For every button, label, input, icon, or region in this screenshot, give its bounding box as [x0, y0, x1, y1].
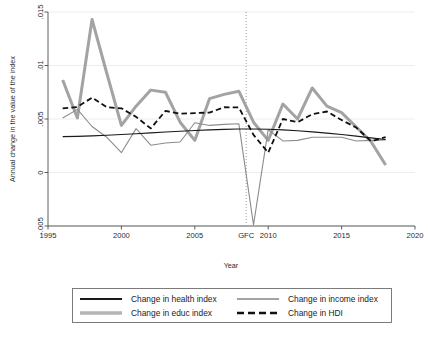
x-tick-label-4: 2015 [333, 231, 350, 240]
series-line-change-in-educ-index [63, 19, 386, 165]
series-line-change-in-health-index [63, 129, 386, 139]
x-tick-label-5: 2020 [407, 231, 424, 240]
x-tick-label-0: 1995 [40, 231, 57, 240]
series-line-change-in-hdi [63, 98, 386, 153]
chart-canvas: -.0050.005.01.015 1995200020052010201520… [0, 0, 428, 344]
x-tick-label-3: 2010 [260, 231, 277, 240]
chart-figure: -.0050.005.01.015 1995200020052010201520… [0, 0, 428, 344]
y-tick-label-3: .01 [36, 60, 45, 71]
legend: Change in health index Change in income … [73, 289, 392, 323]
gridlines-group [48, 12, 415, 226]
y-tick-label-2: .005 [36, 112, 45, 127]
y-axis-title: Annual change in the value of the index [8, 56, 17, 182]
x-axis-title: Year [224, 261, 239, 270]
legend-label-educ: Change in educ index [131, 308, 213, 318]
legend-label-hdi: Change in HDI [288, 308, 343, 318]
y-axis-ticks: -.0050.005.01.015 [36, 5, 48, 235]
y-tick-label-4: .015 [36, 5, 45, 20]
legend-label-health: Change in health index [131, 294, 217, 304]
x-tick-label-2: 2005 [186, 231, 203, 240]
legend-item-income[interactable]: Change in income index [237, 294, 379, 304]
series-line-change-in-income-index [63, 109, 386, 225]
legend-item-hdi[interactable]: Change in HDI [237, 308, 343, 318]
legend-label-income: Change in income index [288, 294, 379, 304]
gfc-annotation: GFC [238, 12, 255, 240]
legend-item-health[interactable]: Change in health index [80, 294, 217, 304]
gfc-label: GFC [238, 231, 255, 240]
x-tick-label-1: 2000 [113, 231, 130, 240]
y-tick-label-1: 0 [36, 170, 45, 174]
legend-item-educ[interactable]: Change in educ index [80, 308, 213, 318]
data-series-group [63, 19, 386, 224]
x-axis-ticks: 199520002005201020152020 [40, 226, 424, 240]
